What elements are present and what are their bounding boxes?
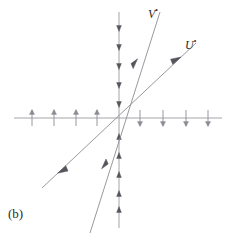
vertical-axis-group bbox=[117, 12, 122, 228]
flow-arrow-up bbox=[117, 172, 122, 178]
v-eigendirection-line bbox=[90, 12, 160, 233]
v-axis-label-superscript: • bbox=[155, 6, 158, 15]
phase-portrait-figure: V• U• (b) bbox=[0, 0, 231, 235]
flow-arrow-up bbox=[117, 153, 122, 159]
horizontal-axis-group bbox=[14, 109, 222, 126]
flow-arrow-up bbox=[117, 207, 122, 213]
flow-arrow-down bbox=[117, 102, 122, 108]
v-line-arrow-upper bbox=[131, 59, 138, 69]
flow-arrow-down bbox=[117, 26, 122, 32]
u-axis-label: U• bbox=[185, 38, 196, 51]
v-line-arrow-lower bbox=[102, 159, 109, 169]
u-line-arrow-upper bbox=[171, 57, 181, 64]
flow-arrow-down bbox=[117, 45, 122, 51]
panel-caption: (b) bbox=[8, 206, 23, 222]
v-eigendirection-group bbox=[90, 12, 160, 233]
u-axis-label-superscript: • bbox=[194, 37, 197, 46]
v-axis-label: V• bbox=[148, 7, 158, 20]
u-axis-label-base: U bbox=[185, 38, 194, 52]
u-line-arrow-lower bbox=[58, 166, 68, 173]
phase-portrait-svg bbox=[0, 0, 231, 235]
flow-arrow-up bbox=[117, 191, 122, 197]
flow-arrow-down bbox=[117, 64, 122, 70]
flow-arrow-down bbox=[117, 83, 122, 89]
